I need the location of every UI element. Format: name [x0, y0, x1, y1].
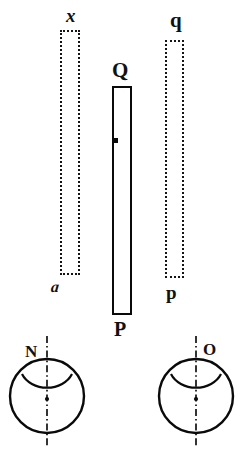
left-bar-bottom-label: a	[50, 279, 60, 295]
left-eye-label: N	[25, 343, 37, 360]
right-bar-bottom-label: p	[166, 283, 177, 302]
right-dotted-bar	[165, 40, 184, 278]
right-eye-graphic	[144, 336, 247, 448]
center-solid-bar	[112, 86, 132, 315]
right-bar-top-label: q	[170, 10, 182, 31]
right-eye-label: O	[203, 341, 216, 358]
figure-root: x a Q P q p N O	[0, 0, 247, 452]
center-bar-tick-dot	[113, 138, 118, 143]
right-eye-nodal-point	[194, 397, 198, 401]
left-dotted-bar	[60, 30, 80, 275]
right-eye	[144, 336, 247, 448]
left-eye-nodal-point	[45, 397, 49, 401]
center-bar-top-label: Q	[112, 60, 128, 81]
left-bar-top-label: x	[66, 6, 76, 25]
